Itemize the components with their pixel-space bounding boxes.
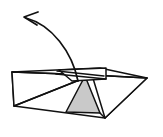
origami-diagram-svg: Technical origami diagram: a flat folded…: [0, 0, 163, 137]
fold-motion-arrowhead-icon: [24, 12, 38, 25]
origami-diagram-canvas: Technical origami diagram: a flat folded…: [0, 0, 163, 137]
